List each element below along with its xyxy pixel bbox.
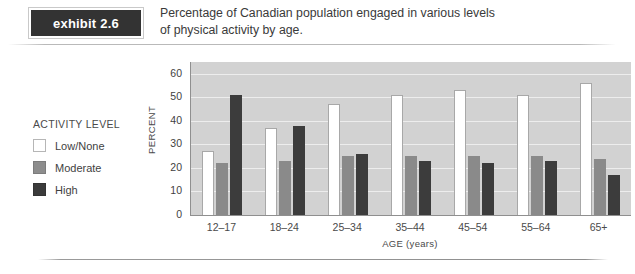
bar-low bbox=[265, 128, 277, 215]
bar-high bbox=[608, 175, 620, 215]
bar-group bbox=[191, 62, 254, 215]
bar-high bbox=[419, 161, 431, 215]
x-tick-label: 18–24 bbox=[253, 221, 316, 233]
bar-high bbox=[482, 163, 494, 215]
bar-low bbox=[454, 90, 466, 215]
x-tick-label: 55–64 bbox=[504, 221, 567, 233]
bar-group bbox=[254, 62, 317, 215]
figure-caption: Percentage of Canadian population engage… bbox=[160, 5, 560, 38]
bar-group bbox=[442, 62, 505, 215]
exhibit-figure: exhibit 2.6 Percentage of Canadian popul… bbox=[0, 0, 635, 274]
legend-title: ACTIVITY LEVEL bbox=[33, 118, 120, 130]
bar-high bbox=[230, 95, 242, 215]
bar-high bbox=[293, 126, 305, 215]
bar-low bbox=[580, 83, 592, 215]
legend-label-high: High bbox=[55, 184, 78, 196]
plot-area bbox=[190, 62, 631, 216]
y-tick-label: 30 bbox=[156, 137, 182, 149]
chart-legend: ACTIVITY LEVEL Low/None Moderate High bbox=[33, 118, 120, 205]
bar-low bbox=[202, 151, 214, 215]
bar-mod bbox=[468, 156, 480, 215]
x-tick-label: 25–34 bbox=[316, 221, 379, 233]
bar-mod bbox=[594, 159, 606, 215]
x-tick-label: 45–54 bbox=[441, 221, 504, 233]
y-tick-label: 20 bbox=[156, 161, 182, 173]
legend-item-high: High bbox=[33, 183, 120, 196]
exhibit-badge: exhibit 2.6 bbox=[29, 8, 143, 38]
bar-group bbox=[568, 62, 631, 215]
bar-mod bbox=[405, 156, 417, 215]
legend-label-moderate: Moderate bbox=[55, 162, 101, 174]
caption-line-2: of physical activity by age. bbox=[160, 22, 560, 39]
legend-label-low-none: Low/None bbox=[55, 140, 105, 152]
bar-high bbox=[356, 154, 368, 215]
bar-mod bbox=[531, 156, 543, 215]
caption-line-1: Percentage of Canadian population engage… bbox=[160, 5, 560, 22]
x-axis-label: AGE (years) bbox=[190, 238, 630, 249]
legend-swatch-icon-high bbox=[33, 183, 46, 196]
bar-group bbox=[317, 62, 380, 215]
exhibit-number: 2.6 bbox=[100, 16, 119, 31]
bar-groups bbox=[191, 62, 631, 215]
bar-low bbox=[517, 95, 529, 215]
legend-swatch-icon-low-none bbox=[33, 139, 46, 152]
bar-mod bbox=[342, 156, 354, 215]
exhibit-word: exhibit bbox=[53, 16, 96, 31]
y-tick-label: 10 bbox=[156, 184, 182, 196]
x-tick-label: 65+ bbox=[567, 221, 630, 233]
bar-mod bbox=[216, 163, 228, 215]
divider-bottom bbox=[38, 259, 608, 260]
legend-item-low-none: Low/None bbox=[33, 139, 120, 152]
y-tick-label: 60 bbox=[156, 67, 182, 79]
y-tick-label: 0 bbox=[156, 208, 182, 220]
y-tick-mark bbox=[190, 215, 191, 216]
bar-high bbox=[545, 161, 557, 215]
x-axis-ticks: 12–1718–2425–3435–4445–5455–6465+ bbox=[190, 221, 630, 233]
divider-top bbox=[8, 44, 616, 45]
bar-low bbox=[391, 95, 403, 215]
bar-group bbox=[505, 62, 568, 215]
y-tick-label: 50 bbox=[156, 90, 182, 102]
x-tick-label: 35–44 bbox=[379, 221, 442, 233]
legend-swatch-icon-moderate bbox=[33, 161, 46, 174]
bar-mod bbox=[279, 161, 291, 215]
x-tick-label: 12–17 bbox=[190, 221, 253, 233]
y-tick-label: 40 bbox=[156, 114, 182, 126]
bar-group bbox=[380, 62, 443, 215]
legend-item-moderate: Moderate bbox=[33, 161, 120, 174]
bar-low bbox=[328, 104, 340, 215]
